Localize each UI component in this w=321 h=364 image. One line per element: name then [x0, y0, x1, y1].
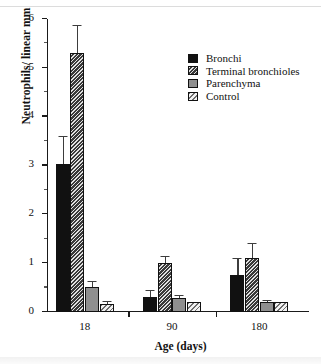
x-axis-title: Age (days)	[40, 340, 321, 352]
error-cap	[262, 300, 271, 301]
y-tick-label: 1	[29, 256, 35, 267]
y-tick-label: 6	[29, 12, 35, 23]
error-bar-parenchyma-180	[267, 301, 268, 302]
legend-label: Terminal bronchioles	[206, 65, 300, 78]
y-tick-label: 2	[29, 208, 35, 219]
bar-group-18	[56, 19, 114, 312]
y-tick-4: 4	[42, 115, 47, 116]
legend-label: Bronchi	[206, 52, 241, 65]
x-group-label-18: 18	[79, 320, 90, 332]
y-tick-2: 2	[42, 213, 47, 214]
error-cap	[73, 25, 82, 26]
chart-figure: Neutrophils/ linear mm 0123456 1890180 A…	[0, 0, 321, 364]
legend-label: Parenchyma	[206, 77, 260, 90]
bar-control-18	[100, 304, 114, 312]
bar-terminal-bronchioles-90	[158, 263, 172, 312]
bar-terminal-bronchioles-180	[245, 258, 259, 312]
bar-control-90	[187, 302, 201, 312]
scan-artifact-caption	[0, 357, 321, 364]
error-cap	[87, 281, 96, 282]
chart-legend: BronchiTerminal bronchiolesParenchymaCon…	[188, 52, 300, 102]
bar-terminal-bronchioles-18	[70, 53, 84, 312]
legend-swatch-icon	[188, 79, 198, 88]
y-tick-label: 0	[29, 305, 35, 316]
legend-item-control: Control	[188, 90, 300, 103]
legend-label: Control	[206, 90, 240, 103]
bar-control-180	[274, 302, 288, 312]
y-tick-minor	[44, 238, 47, 239]
y-axis-line	[47, 19, 48, 312]
legend-swatch-icon	[188, 66, 198, 75]
error-bar-control-18	[107, 302, 108, 303]
y-tick-3: 3	[42, 164, 47, 165]
scan-artifact-line	[0, 6, 321, 7]
error-cap	[102, 301, 111, 302]
bar-parenchyma-18	[85, 287, 99, 312]
y-tick-minor	[44, 140, 47, 141]
y-tick-5: 5	[42, 67, 47, 68]
error-bar-terminal-bronchioles-90	[165, 257, 166, 263]
legend-swatch-icon	[188, 92, 198, 101]
error-cap	[160, 256, 169, 257]
x-group-label-90: 90	[167, 320, 178, 332]
error-bar-bronchi-18	[63, 137, 64, 164]
error-bar-parenchyma-18	[92, 282, 93, 287]
y-tick-minor	[44, 91, 47, 92]
error-cap	[248, 243, 257, 244]
bar-parenchyma-180	[260, 302, 274, 312]
y-tick-label: 4	[29, 110, 35, 121]
error-cap	[58, 136, 67, 137]
bar-bronchi-18	[56, 164, 70, 312]
y-tick-0: 0	[42, 311, 47, 312]
error-cap	[146, 290, 155, 291]
x-tick	[128, 312, 129, 317]
y-tick-minor	[44, 42, 47, 43]
y-tick-minor	[44, 189, 47, 190]
error-cap	[175, 295, 184, 296]
bar-parenchyma-90	[172, 298, 186, 312]
bar-bronchi-180	[230, 275, 244, 312]
x-group-label-180: 180	[251, 320, 268, 332]
y-tick-1: 1	[42, 262, 47, 263]
y-tick-minor	[44, 286, 47, 287]
legend-item-terminal-bronchioles: Terminal bronchioles	[188, 65, 300, 78]
y-tick-label: 3	[29, 159, 35, 170]
y-tick-label: 5	[29, 61, 35, 72]
legend-item-parenchyma: Parenchyma	[188, 77, 300, 90]
bar-bronchi-90	[143, 297, 157, 312]
error-bar-bronchi-180	[237, 259, 238, 275]
error-bar-terminal-bronchioles-180	[252, 244, 253, 259]
y-axis-title: Neutrophils/ linear mm	[20, 0, 32, 176]
error-bar-bronchi-90	[150, 291, 151, 297]
error-bar-parenchyma-90	[179, 296, 180, 298]
legend-swatch-icon	[188, 54, 198, 63]
legend-item-bronchi: Bronchi	[188, 52, 300, 65]
x-tick	[216, 312, 217, 317]
y-tick-6: 6	[42, 18, 47, 19]
error-cap	[233, 258, 242, 259]
error-bar-terminal-bronchioles-18	[77, 26, 78, 53]
